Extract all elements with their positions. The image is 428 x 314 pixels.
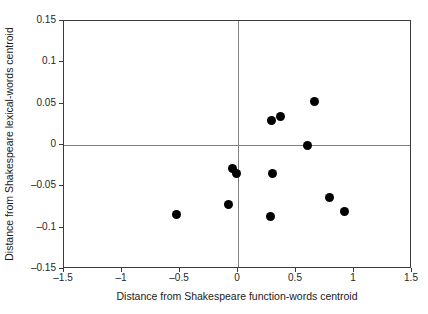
data-point	[232, 169, 241, 178]
y-axis-title: Distance from Shakespeare lexical-words …	[2, 20, 16, 268]
y-axis-tick	[59, 20, 63, 21]
x-axis-tick-label: –1.5	[53, 272, 72, 284]
x-axis-tick-label: 0.5	[288, 272, 302, 284]
y-axis-tick	[59, 268, 63, 269]
x-axis-tick-label: –0.5	[169, 272, 188, 284]
data-point	[325, 193, 334, 202]
y-axis-tick-label: 0	[50, 138, 56, 150]
x-axis-tick-label: 1.5	[404, 272, 418, 284]
data-point	[266, 212, 275, 221]
data-point	[303, 141, 312, 150]
y-axis-tick	[59, 103, 63, 104]
y-axis-tick	[59, 185, 63, 186]
scatter-plot-figure: Distance from Shakespeare lexical-words …	[0, 0, 428, 314]
plot-area	[63, 20, 411, 268]
data-point	[267, 116, 276, 125]
y-axis-tick	[59, 144, 63, 145]
y-axis-tick	[59, 61, 63, 62]
y-axis-tick-label: 0.1	[42, 55, 56, 67]
y-axis-tick-label: –0.1	[37, 221, 56, 233]
y-axis-tick-label: 0.15	[37, 14, 56, 26]
y-axis-tick	[59, 227, 63, 228]
y-axis-tick-label: –0.05	[31, 179, 56, 191]
zero-line-vertical	[238, 21, 239, 267]
x-axis-title: Distance from Shakespeare function-words…	[63, 290, 411, 303]
zero-line-horizontal	[64, 145, 410, 146]
y-axis-tick-label: –0.15	[31, 262, 56, 274]
x-axis-tick-label: 1	[350, 272, 356, 284]
y-axis-tick-label: 0.05	[37, 97, 56, 109]
x-axis-tick-label: –1	[115, 272, 126, 284]
data-point	[340, 207, 349, 216]
data-point	[224, 200, 233, 209]
x-axis-tick-label: 0	[234, 272, 240, 284]
data-point	[276, 112, 285, 121]
data-point	[172, 210, 181, 219]
y-axis-title-text: Distance from Shakespeare lexical-words …	[3, 27, 15, 260]
data-point	[268, 169, 277, 178]
data-point	[310, 97, 319, 106]
